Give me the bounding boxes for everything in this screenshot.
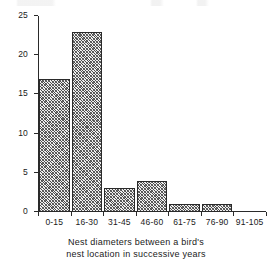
y-tick-label: 20: [18, 49, 28, 59]
y-tick-label: 5: [23, 167, 28, 177]
y-tick-label: 10: [18, 128, 28, 138]
y-tick-label: 0: [23, 206, 28, 216]
bar-46-60: [137, 181, 168, 212]
bar-series: [38, 16, 266, 212]
cropped-title-remnant: [0, 0, 272, 6]
x-tick-label: 46-60: [136, 217, 169, 227]
x-tick: [136, 212, 137, 216]
chart-figure: Observed instances 0510152025 0-1516-303…: [0, 0, 272, 264]
x-tick-label: 76-90: [201, 217, 234, 227]
x-axis-title-line-1: Nest diameters between a bird's: [0, 236, 272, 248]
x-axis-title-line-2: nest location in successive years: [0, 248, 272, 260]
y-tick-label: 15: [18, 88, 28, 98]
x-tick-label: 31-45: [103, 217, 136, 227]
x-tick: [233, 212, 234, 216]
bar-61-75: [169, 204, 200, 212]
x-tick: [103, 212, 104, 216]
x-tick: [71, 212, 72, 216]
x-tick: [266, 212, 267, 216]
x-tick: [38, 212, 39, 216]
bar-31-45: [104, 188, 135, 212]
bar-16-30: [72, 32, 103, 212]
x-tick-label: 0-15: [38, 217, 71, 227]
bar-76-90: [202, 204, 233, 212]
x-tick: [168, 212, 169, 216]
plot-area: 0510152025 0-1516-3031-4546-6061-7576-90…: [38, 16, 266, 212]
x-axis-title: Nest diameters between a bird's nest loc…: [0, 236, 272, 260]
x-tick-label: 61-75: [168, 217, 201, 227]
x-tick: [201, 212, 202, 216]
y-tick-label: 25: [18, 10, 28, 20]
x-tick-label: 16-30: [71, 217, 104, 227]
bar-0-15: [39, 79, 70, 212]
x-tick-label: 91-105: [233, 217, 266, 227]
